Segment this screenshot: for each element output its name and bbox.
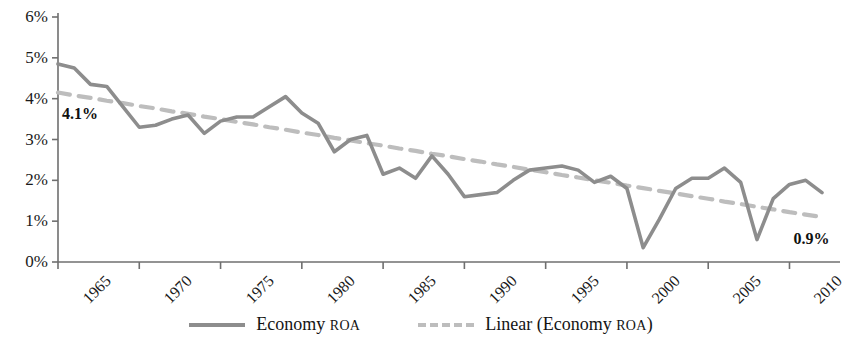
legend-label-acronym: ROA [330,318,360,333]
legend-label-suffix: ) [647,314,653,334]
y-axis-tick-5pct: 5% [4,49,48,66]
legend-swatch-solid-line-icon [189,323,245,327]
legend-label: Economy ROA [256,314,360,335]
chart-axes [52,13,840,269]
y-axis-tick-4pct: 4% [4,90,48,107]
y-axis-tick-2pct: 2% [4,171,48,188]
trend-start-value: 4.1% [62,105,98,123]
legend-item-economy-roa[interactable]: Economy ROA [189,314,360,335]
legend-label: Linear (Economy ROA) [485,314,652,335]
chart-container: 0%1%2%3%4%5%6% 1965197019751980198519901… [0,0,842,340]
legend-label-acronym: ROA [616,318,646,333]
y-axis-tick-6pct: 6% [4,8,48,25]
y-axis-tick-0pct: 0% [4,253,48,270]
legend-swatch-dashed-line-icon [418,323,474,327]
chart-legend: Economy ROALinear (Economy ROA) [0,314,842,335]
legend-label-text: Economy [256,314,330,334]
y-axis-tick-3pct: 3% [4,131,48,148]
series-line-linear-economy-roa [58,93,822,218]
chart-series [58,64,822,248]
legend-label-text: Linear (Economy [485,314,616,334]
trend-end-value: 0.9% [793,230,829,248]
legend-item-linear-economy-roa[interactable]: Linear (Economy ROA) [418,314,652,335]
y-axis-tick-1pct: 1% [4,212,48,229]
